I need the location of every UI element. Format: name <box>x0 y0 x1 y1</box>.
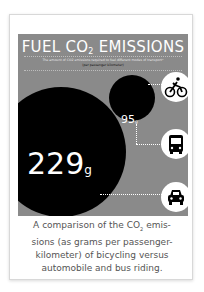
bus-icon-circle <box>161 129 188 159</box>
figure-card: FUEL CO2 EMISSIONS The amount of CO2 emi… <box>9 14 193 280</box>
bicycle-emissions-bubble <box>140 81 146 87</box>
caption-line: kilometer) of bicycling versus <box>10 249 194 262</box>
infographic-subtitle: The amount of CO2 emissions required to … <box>18 58 188 62</box>
infographic-panel: FUEL CO2 EMISSIONS The amount of CO2 emi… <box>18 34 188 216</box>
infographic-title: FUEL CO2 EMISSIONS <box>18 38 188 56</box>
caption-line: sions (as grams per passenger- <box>10 236 194 249</box>
divider <box>24 56 182 57</box>
divider <box>24 70 182 71</box>
car-value-label: 229g <box>27 146 92 181</box>
bicycle-icon-circle <box>161 72 188 102</box>
car-icon <box>161 182 188 212</box>
figure-caption: A comparison of the CO2 emis- sions (as … <box>10 219 194 275</box>
bicycle-leader-line <box>148 84 162 85</box>
caption-line: A comparison of the CO2 emis- <box>10 219 194 236</box>
bus-icon <box>161 129 188 159</box>
infographic-subtitle-note: (per passenger kilometer) <box>18 63 188 67</box>
bus-leader-line <box>136 144 162 145</box>
car-leader-line <box>100 194 162 195</box>
bicycle-icon <box>161 72 188 102</box>
caption-line: automobile and bus riding. <box>10 262 194 275</box>
car-icon-circle <box>161 182 188 212</box>
bus-leader-line <box>136 124 137 144</box>
